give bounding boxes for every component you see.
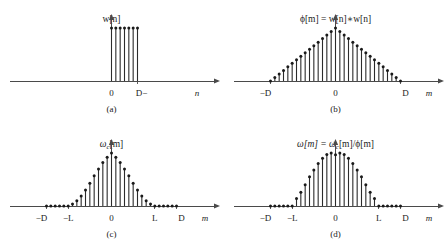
panel-a-caption: (a): [0, 104, 223, 114]
panel-b-tick-0: −D: [260, 88, 272, 98]
panel-d-tick-3: L: [376, 213, 382, 223]
panel-d-tick-4: D: [402, 213, 409, 223]
panel-d: ω[m] = ωc[m]/ϕ[m] −D −L 0 L D m (d): [224, 125, 447, 250]
panel-c-caption: (c): [0, 229, 223, 239]
panel-c-xaxis-label: m: [202, 213, 209, 223]
panel-d-xaxis-label: m: [426, 213, 433, 223]
figure-canvas: w[n] 0 D− n (a) ϕ[m] = w[n]∗w[n] −D 0 D …: [0, 0, 447, 250]
panel-d-caption: (d): [224, 229, 447, 239]
panel-a: w[n] 0 D− n (a): [0, 0, 223, 125]
panel-b: ϕ[m] = w[n]∗w[n] −D 0 D m (b): [224, 0, 447, 125]
panel-b-tick-1: 0: [333, 88, 338, 98]
panel-d-tick-0: −D: [260, 213, 272, 223]
panel-c-tick-3: L: [152, 213, 158, 223]
panel-c-tick-0: −D: [36, 213, 48, 223]
panel-b-caption: (b): [224, 104, 447, 114]
panel-a-tick-1: D−: [136, 88, 148, 98]
panel-b-tick-2: D: [402, 88, 409, 98]
panel-a-xaxis-label: n: [195, 88, 200, 98]
panel-b-xaxis-label: m: [426, 88, 433, 98]
panel-c-tick-1: −L: [63, 213, 74, 223]
panel-d-tick-1: −L: [287, 213, 298, 223]
panel-c-tick-2: 0: [109, 213, 114, 223]
panel-d-tick-2: 0: [333, 213, 338, 223]
panel-c: ωc[m] −D −L 0 L D m (c): [0, 125, 223, 250]
panel-a-tick-0: 0: [109, 88, 114, 98]
panel-c-tick-4: D: [178, 213, 185, 223]
